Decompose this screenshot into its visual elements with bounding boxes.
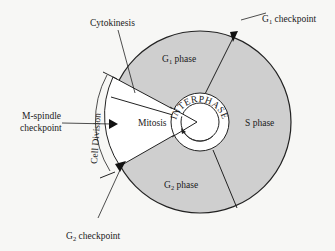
g1-checkpoint-label: G1 checkpoint bbox=[262, 14, 317, 25]
g1-phase-label: G1 phase bbox=[162, 54, 196, 65]
mitosis-label: Mitosis bbox=[138, 118, 167, 128]
s-phase-label: S phase bbox=[245, 118, 274, 128]
m-spindle-checkpoint-label-line2: checkpoint bbox=[20, 123, 62, 133]
cell-division-label: Cell Division bbox=[89, 112, 103, 164]
g2-checkpoint-label: G2 checkpoint bbox=[66, 231, 121, 242]
cytokinesis-label: Cytokinesis bbox=[90, 18, 135, 28]
m-spindle-checkpoint-label-line1: M-spindle bbox=[22, 111, 61, 121]
cell-cycle-diagram: INTERPHASE Cell Division Cytokinesis Mit… bbox=[0, 0, 335, 251]
g2-phase-label: G2 phase bbox=[164, 180, 198, 191]
